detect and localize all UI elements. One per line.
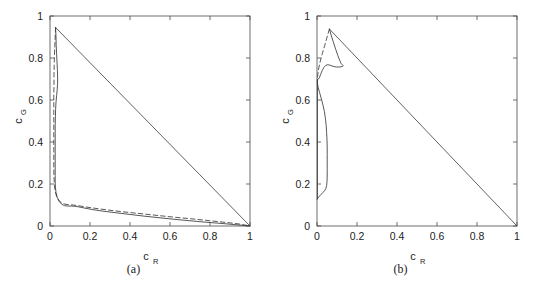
x-tick-label: 1 bbox=[514, 230, 520, 242]
plot-b-svg: 00.20.40.60.8100.20.40.60.81cRcG bbox=[267, 0, 534, 294]
curve-simplex-hypotenuse bbox=[329, 29, 517, 226]
plot-a-svg: 00.20.40.60.8100.20.40.60.81cRcG bbox=[0, 0, 267, 294]
y-tick-label: 1 bbox=[304, 10, 310, 22]
curve-simplex-hypotenuse bbox=[56, 28, 250, 226]
y-tick-label: 0 bbox=[304, 220, 310, 232]
curve-dashed-boundary bbox=[317, 29, 329, 79]
y-axis-title-subscript: G bbox=[286, 109, 295, 115]
x-tick-label: 0.2 bbox=[83, 230, 98, 242]
y-axis-title-subscript: G bbox=[19, 109, 28, 115]
y-tick-label: 0.6 bbox=[295, 94, 310, 106]
x-tick-label: 0.2 bbox=[350, 230, 365, 242]
y-axis-title: c bbox=[279, 118, 291, 124]
panel-a: 00.20.40.60.8100.20.40.60.81cRcG (a) bbox=[0, 0, 267, 294]
y-tick-label: 0.2 bbox=[295, 178, 310, 190]
y-tick-label: 0.4 bbox=[28, 136, 43, 148]
y-tick-label: 0.6 bbox=[28, 94, 43, 106]
y-tick-label: 0.4 bbox=[295, 136, 310, 148]
panel-b: 00.20.40.60.8100.20.40.60.81cRcG (b) bbox=[267, 0, 534, 294]
x-tick-label: 0.4 bbox=[123, 230, 138, 242]
y-axis-title-group: cG bbox=[279, 109, 295, 124]
x-axis-title: c bbox=[143, 250, 149, 262]
y-tick-label: 0.8 bbox=[28, 52, 43, 64]
x-tick-label: 0.4 bbox=[390, 230, 405, 242]
panel-a-caption: (a) bbox=[0, 262, 267, 277]
y-tick-label: 0.8 bbox=[295, 52, 310, 64]
x-axis-title: c bbox=[410, 250, 416, 262]
curve-solid-boundary bbox=[317, 29, 343, 199]
y-axis-title: c bbox=[12, 118, 24, 124]
x-tick-label: 0.8 bbox=[470, 230, 485, 242]
plot-frame bbox=[50, 16, 250, 226]
x-tick-label: 0.8 bbox=[203, 230, 218, 242]
x-tick-label: 0.6 bbox=[163, 230, 178, 242]
y-tick-label: 0 bbox=[37, 220, 43, 232]
x-tick-label: 0 bbox=[314, 230, 320, 242]
x-tick-label: 1 bbox=[247, 230, 253, 242]
panel-b-caption: (b) bbox=[267, 262, 534, 277]
y-tick-label: 1 bbox=[37, 10, 43, 22]
y-tick-label: 0.2 bbox=[28, 178, 43, 190]
figure-container: 00.20.40.60.8100.20.40.60.81cRcG (a) 00.… bbox=[0, 0, 534, 294]
x-tick-label: 0.6 bbox=[430, 230, 445, 242]
y-axis-title-group: cG bbox=[12, 109, 28, 124]
x-tick-label: 0 bbox=[47, 230, 53, 242]
